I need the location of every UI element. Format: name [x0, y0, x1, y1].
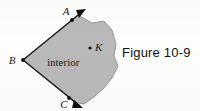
vertex-dot-b [21, 58, 25, 62]
figure-caption: Figure 10-9 [122, 45, 191, 60]
interior-point-label-k: K [94, 41, 103, 53]
vertex-label-a: A [62, 5, 70, 17]
interior-point-dot-k [88, 46, 91, 49]
figure-page: A B C K interior Figure 10-9 [0, 0, 200, 111]
vertex-label-c: C [60, 98, 68, 110]
vertex-label-b: B [9, 54, 16, 66]
vertex-dot-a [70, 18, 74, 22]
interior-region-label: interior [47, 56, 80, 68]
